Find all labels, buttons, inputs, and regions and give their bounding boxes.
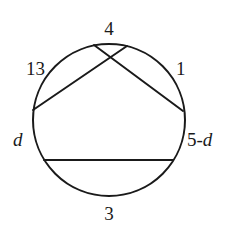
arc-label-upper-left: 13 xyxy=(26,58,45,79)
arc-label-top: 4 xyxy=(104,18,114,39)
arc-label-right: 5-d xyxy=(187,129,213,150)
top-left-to-right-chord xyxy=(94,45,183,111)
arc-label-left: d xyxy=(13,129,23,150)
circle-diagram: 4 13 1 d 5-d 3 xyxy=(0,0,234,234)
arc-label-upper-right: 1 xyxy=(176,58,186,79)
left-to-top-chord xyxy=(33,46,127,110)
diagram-canvas: 4 13 1 d 5-d 3 xyxy=(0,0,234,234)
arc-label-bottom: 3 xyxy=(104,203,114,224)
circle xyxy=(33,44,185,196)
